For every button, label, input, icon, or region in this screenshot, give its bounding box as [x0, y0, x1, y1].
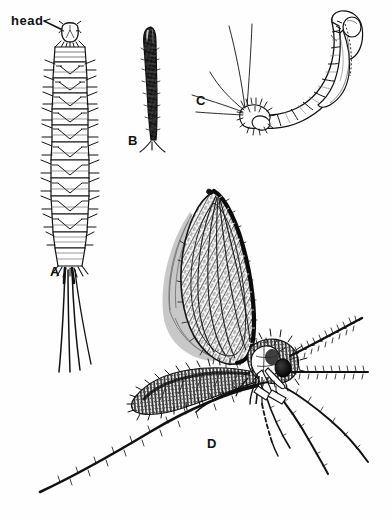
adult-wing: [163, 189, 257, 369]
pupa-eye: [343, 17, 361, 37]
figure-plate: head A B C D: [0, 0, 391, 519]
larva-head-capsule: [55, 21, 85, 50]
panel-c-pupa: [192, 11, 363, 135]
panel-b-body: [144, 27, 157, 140]
panel-label-c: C: [196, 94, 205, 107]
pupa-larval-exuvia: [237, 98, 275, 135]
adult-mid-leg: [276, 392, 328, 474]
panel-label-b: B: [128, 134, 137, 147]
adult-fore-leg: [286, 388, 368, 462]
panel-label-d: D: [207, 437, 216, 450]
larva-caudal-filaments: [59, 268, 91, 372]
illustration-canvas: [0, 0, 391, 519]
larva-body-segments: [51, 47, 89, 266]
adult-antennae: [290, 316, 368, 379]
panel-b-dark-stage: [140, 27, 165, 152]
panel-a-larva: [41, 19, 99, 372]
panel-label-a: A: [50, 265, 59, 278]
panel-b-terminal-processes: [140, 141, 165, 152]
head-callout-label: head: [11, 14, 43, 27]
